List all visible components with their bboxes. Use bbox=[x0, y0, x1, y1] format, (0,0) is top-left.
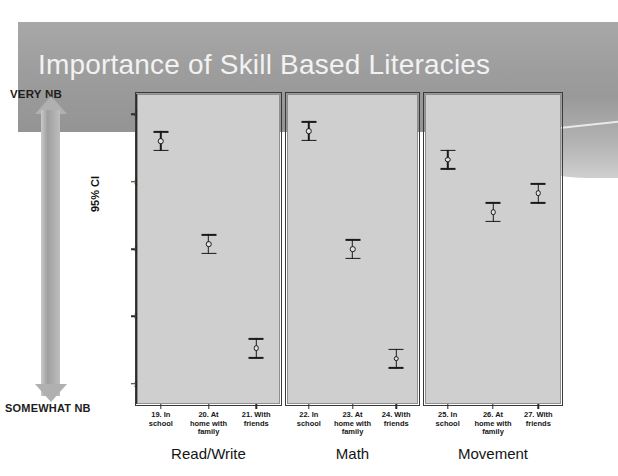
error-bar-cap-upper bbox=[486, 202, 501, 204]
chart-plot: 95% CI 3.63.43.23.02.8 19. Inschool20. A… bbox=[90, 94, 580, 414]
mean-point-marker bbox=[445, 157, 451, 163]
mean-point-marker bbox=[350, 246, 356, 252]
mean-point-marker bbox=[306, 128, 312, 134]
x-tick-label-line: friends bbox=[507, 420, 569, 429]
error-bar-marker bbox=[249, 338, 264, 358]
x-tick-mark bbox=[255, 404, 256, 409]
error-bar-marker bbox=[345, 239, 360, 259]
error-bar-marker bbox=[389, 348, 404, 368]
mean-point-marker bbox=[253, 346, 259, 352]
chart-panel bbox=[425, 94, 561, 404]
mean-point-marker bbox=[206, 241, 212, 247]
error-bar-cap-lower bbox=[486, 220, 501, 222]
error-bar-cap-upper bbox=[345, 239, 360, 241]
arrow-down-head-icon bbox=[35, 384, 67, 402]
error-bar-marker bbox=[301, 121, 316, 141]
error-bar-marker bbox=[486, 202, 501, 222]
error-bar-cap-upper bbox=[249, 338, 264, 340]
slide-root: Importance of Skill Based Literacies VER… bbox=[0, 0, 618, 476]
mean-point-marker bbox=[393, 356, 399, 362]
error-bar-cap-upper bbox=[153, 131, 168, 133]
x-tick-mark bbox=[395, 404, 396, 409]
mean-point-marker bbox=[158, 138, 164, 144]
error-bar-cap-upper bbox=[440, 150, 455, 152]
error-bar-marker bbox=[153, 131, 168, 151]
error-bar-cap-upper bbox=[531, 183, 546, 185]
x-tick-mark bbox=[447, 404, 448, 409]
x-tick-mark bbox=[352, 404, 353, 409]
x-tick-mark bbox=[538, 404, 539, 409]
x-tick-label-line: family bbox=[178, 428, 240, 437]
error-bar-cap-lower bbox=[249, 357, 264, 359]
mean-point-marker bbox=[490, 209, 496, 215]
x-tick-mark bbox=[308, 404, 309, 409]
error-bar-cap-lower bbox=[531, 202, 546, 204]
error-bar-cap-lower bbox=[345, 258, 360, 260]
arrow-shaft-icon bbox=[41, 110, 60, 396]
x-tick-mark bbox=[208, 404, 209, 409]
error-bar-cap-upper bbox=[201, 234, 216, 236]
page-title: Importance of Skill Based Literacies bbox=[38, 48, 603, 82]
error-bar-marker bbox=[201, 234, 216, 254]
mean-point-marker bbox=[536, 191, 542, 197]
x-tick-label-line: family bbox=[462, 428, 524, 437]
error-bar-cap-upper bbox=[389, 348, 404, 350]
error-bar-marker bbox=[531, 183, 546, 203]
x-tick-mark bbox=[160, 404, 161, 409]
error-bar-marker bbox=[440, 150, 455, 170]
y-axis-title: 95% CI bbox=[89, 176, 101, 212]
error-bar-cap-upper bbox=[301, 121, 316, 123]
panel-title: Movement bbox=[408, 445, 578, 462]
error-bar-cap-lower bbox=[201, 252, 216, 254]
error-bar-cap-lower bbox=[153, 150, 168, 152]
error-bar-cap-lower bbox=[301, 140, 316, 142]
x-tick-mark bbox=[492, 404, 493, 409]
panel-group: 19. Inschool20. Athome withfamily21. Wit… bbox=[137, 94, 562, 404]
error-bar-cap-lower bbox=[389, 367, 404, 369]
error-bar-cap-lower bbox=[440, 168, 455, 170]
x-tick-label: 27. Withfriends bbox=[507, 411, 569, 428]
x-tick-label-line: family bbox=[322, 428, 384, 437]
